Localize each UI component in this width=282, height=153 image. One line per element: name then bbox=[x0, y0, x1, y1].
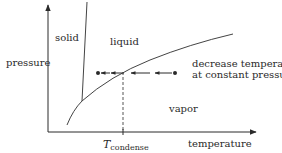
region-label-vapor: vapor bbox=[169, 104, 198, 114]
annotation: decrease temperature at constant pressur… bbox=[192, 58, 282, 80]
annotation-line-1: decrease temperature bbox=[192, 58, 282, 69]
x-axis-label: temperature bbox=[188, 139, 252, 149]
start-point-dot bbox=[173, 71, 177, 75]
region-label-solid: solid bbox=[55, 33, 79, 43]
t-condense-subscript: condense bbox=[110, 143, 148, 152]
solid-liquid-boundary bbox=[82, 2, 87, 101]
region-label-liquid: liquid bbox=[110, 37, 139, 47]
t-condense-label: Tcondense bbox=[103, 139, 149, 152]
annotation-line-2: at constant pressure bbox=[192, 69, 282, 80]
phase-diagram: pressure temperature solid liquid vapor … bbox=[0, 0, 282, 153]
end-point-dot bbox=[96, 71, 100, 75]
y-axis-label: pressure bbox=[6, 58, 51, 68]
